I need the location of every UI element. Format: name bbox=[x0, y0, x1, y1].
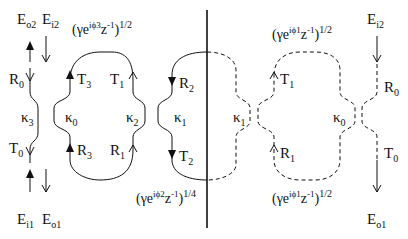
eo2-output-arrow bbox=[26, 41, 34, 62]
expr-left-top: (γeiϕ3z-1)1/2 bbox=[72, 23, 132, 37]
expr-left-bottom: (γeiϕ2z-1)1/4 bbox=[136, 192, 196, 206]
label-t3: T3 bbox=[77, 72, 91, 87]
r2-arrow-icon bbox=[168, 77, 176, 86]
expr-right-top: (γeiϕ1z-1)1/2 bbox=[272, 28, 332, 42]
r3-arrow-icon bbox=[66, 143, 74, 152]
label-r3: R3 bbox=[77, 143, 92, 158]
label-kappa1: κ1 bbox=[174, 110, 187, 125]
label-t1: T1 bbox=[110, 72, 124, 87]
right-ei2-input-arrow bbox=[373, 36, 381, 62]
label-eo1: Eo1 bbox=[42, 212, 61, 227]
right-label-eo1: Eo1 bbox=[367, 212, 386, 227]
label-t0: T0 bbox=[9, 141, 23, 156]
label-r0: R0 bbox=[9, 72, 24, 87]
label-r1: R1 bbox=[110, 143, 125, 158]
right-bus-waveguide-dashed bbox=[362, 64, 377, 160]
right-label-t0: T0 bbox=[384, 146, 398, 161]
eo1-output-arrow bbox=[42, 169, 50, 192]
t2-arrow-icon bbox=[168, 150, 176, 159]
right-label-r1: R1 bbox=[280, 146, 295, 161]
ei2-input-arrow bbox=[42, 36, 50, 62]
right-label-ei2: Ei2 bbox=[367, 12, 384, 27]
right-label-r0: R0 bbox=[384, 80, 399, 95]
t3-arrow-icon bbox=[66, 70, 74, 79]
label-ei1: Ei1 bbox=[17, 212, 34, 227]
right-label-kappa0: κ0 bbox=[333, 110, 346, 125]
diagram-canvas bbox=[0, 0, 408, 239]
label-r2: R2 bbox=[179, 76, 194, 91]
label-kappa2: κ2 bbox=[126, 110, 139, 125]
right-label-kappa1: κ1 bbox=[233, 110, 246, 125]
expr-right-bottom: (γeiϕ1z-1)1/2 bbox=[272, 192, 332, 206]
label-ei2: Ei2 bbox=[42, 12, 59, 27]
label-kappa0: κ0 bbox=[65, 110, 78, 125]
label-kappa3: κ3 bbox=[21, 110, 34, 125]
ei1-input-arrow bbox=[26, 169, 34, 192]
label-t2: T2 bbox=[179, 149, 193, 164]
right-label-t1: T1 bbox=[280, 72, 294, 87]
label-eo2: Eo2 bbox=[17, 12, 36, 27]
right-eo1-output-arrow bbox=[373, 160, 381, 192]
